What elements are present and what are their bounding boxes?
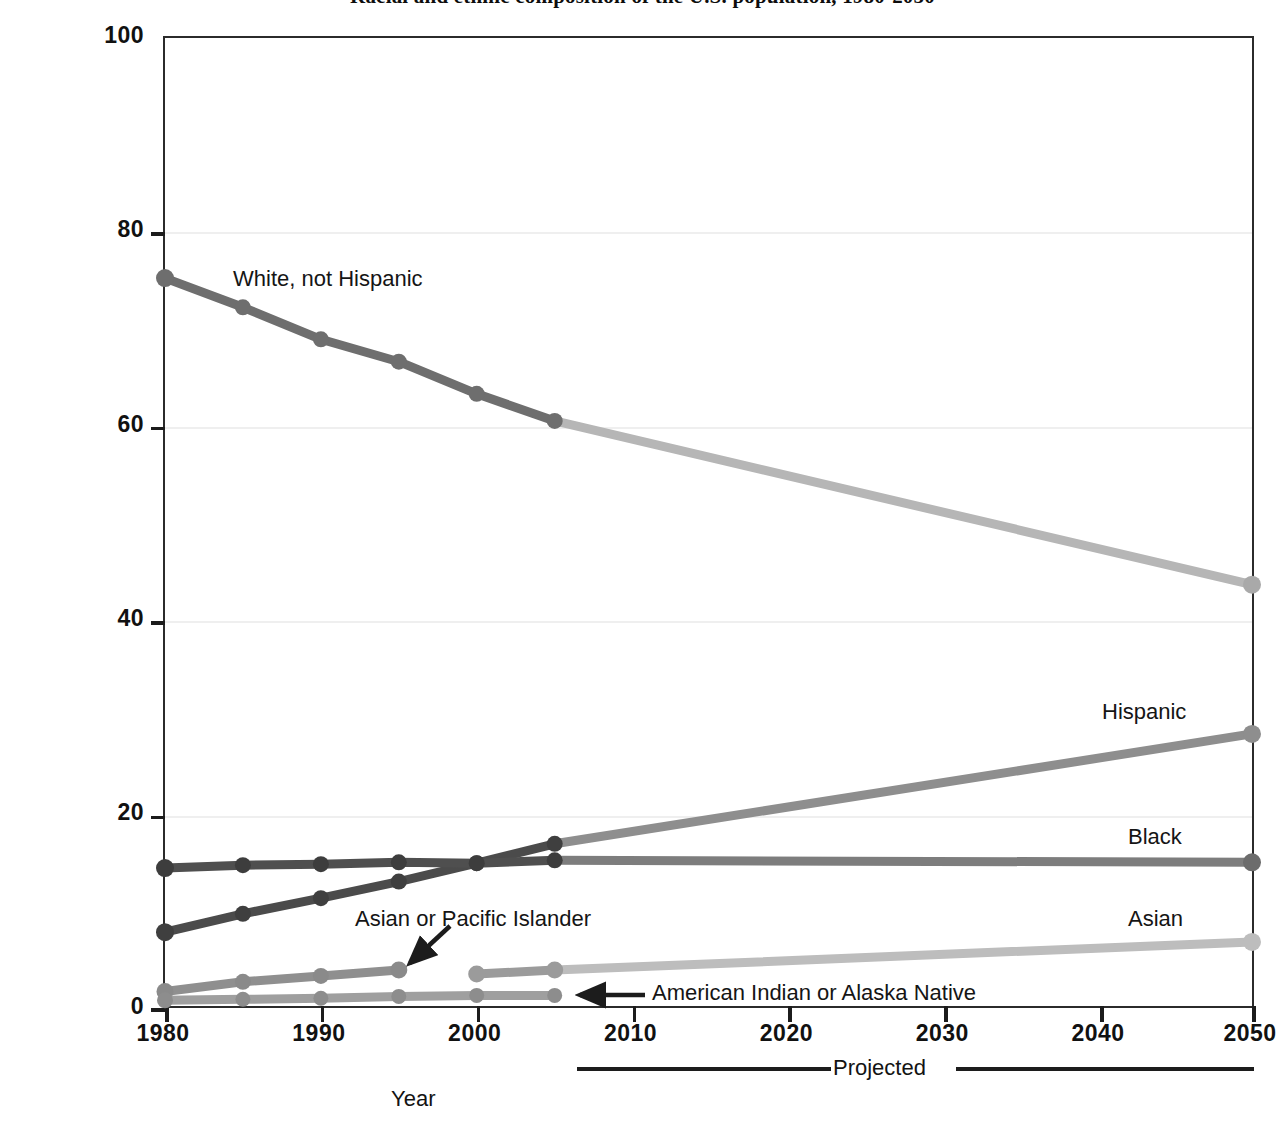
ytick-label-60: 60 — [64, 411, 144, 438]
series-point-black-2050 — [1243, 853, 1261, 871]
series-line-black-historical — [165, 860, 555, 868]
plot-area: 100 80 60 40 20 0 — [163, 36, 1254, 1008]
series-line-asian-historical — [477, 970, 555, 974]
xtick-label-1990: 1990 — [259, 1020, 379, 1047]
series-line-american-indian — [165, 995, 555, 1000]
xtick-label-2000: 2000 — [415, 1020, 535, 1047]
ytick-label-100: 100 — [64, 22, 144, 49]
ytick-label-0: 0 — [64, 993, 144, 1020]
projected-rule-left — [577, 1067, 831, 1071]
xtick-label-2030: 2030 — [882, 1020, 1002, 1047]
figure-container: Racial and ethnic composition of the U.S… — [0, 0, 1285, 1146]
x-axis-title-text: Year — [391, 1086, 435, 1111]
projected-label: Projected — [833, 1055, 926, 1081]
ytick-label-20: 20 — [64, 799, 144, 826]
series-line-white-projected — [555, 421, 1252, 585]
series-layer — [165, 38, 1256, 1010]
xtick-label-2010: 2010 — [571, 1020, 691, 1047]
series-line-white-historical — [165, 278, 555, 421]
series-point-hispanic-2050 — [1243, 725, 1261, 743]
ytick-label-80: 80 — [64, 216, 144, 243]
xtick-label-2050: 2050 — [1190, 1020, 1285, 1047]
series-point-asian-2050 — [1243, 933, 1261, 951]
xtick-label-1980: 1980 — [103, 1020, 223, 1047]
ytick-mark-0 — [151, 1008, 165, 1012]
xtick-label-2020: 2020 — [726, 1020, 846, 1047]
series-line-black-projected — [555, 860, 1252, 862]
projected-bracket: Projected — [163, 1055, 1254, 1081]
series-label-black: Black — [1128, 824, 1182, 850]
xtick-label-2040: 2040 — [1038, 1020, 1158, 1047]
ytick-label-40: 40 — [64, 605, 144, 632]
series-label-hispanic: Hispanic — [1102, 699, 1186, 725]
annotation-label-american-indian: American Indian or Alaska Native — [652, 980, 976, 1006]
ytick-mark-60 — [151, 427, 165, 431]
series-line-asian-projected — [555, 942, 1252, 970]
series-label-white: White, not Hispanic — [233, 266, 423, 292]
ytick-mark-20 — [151, 816, 165, 820]
projected-rule-right — [956, 1067, 1254, 1071]
x-axis-title: Year — [163, 1086, 1254, 1112]
chart-title: Racial and ethnic composition of the U.S… — [0, 0, 1285, 8]
series-line-asian-pacific-islander — [165, 970, 399, 991]
series-point-white-2050 — [1243, 576, 1261, 594]
ytick-mark-80 — [151, 232, 165, 236]
series-label-asian: Asian — [1128, 906, 1183, 932]
ytick-mark-40 — [151, 621, 165, 625]
annotation-label-asian-pacific-islander: Asian or Pacific Islander — [355, 906, 591, 932]
